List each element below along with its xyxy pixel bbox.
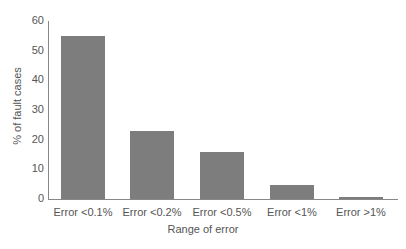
bar-chart: % of fault cases 0102030405060 Error <0.… (0, 0, 406, 249)
x-tick-label: Error <0.5% (187, 206, 257, 218)
x-tick-label: Error <0.1% (48, 206, 118, 218)
y-tick-label: 0 (22, 192, 44, 204)
y-tick-label: 50 (22, 44, 44, 56)
x-axis-line (48, 199, 398, 200)
bar (61, 36, 105, 199)
x-axis-label: Range of error (0, 223, 406, 235)
bar (270, 185, 314, 199)
y-tick-label: 10 (22, 162, 44, 174)
bar (130, 131, 174, 199)
y-tick-label: 60 (22, 14, 44, 26)
y-tick-label: 40 (22, 73, 44, 85)
y-axis-line (48, 21, 49, 200)
bar (339, 197, 383, 199)
x-tick-label: Error <0.2% (117, 206, 187, 218)
x-tick-label: Error <1% (257, 206, 327, 218)
bar (200, 152, 244, 199)
y-tick-label: 30 (22, 103, 44, 115)
y-tick-label: 20 (22, 133, 44, 145)
x-tick-label: Error >1% (326, 206, 396, 218)
